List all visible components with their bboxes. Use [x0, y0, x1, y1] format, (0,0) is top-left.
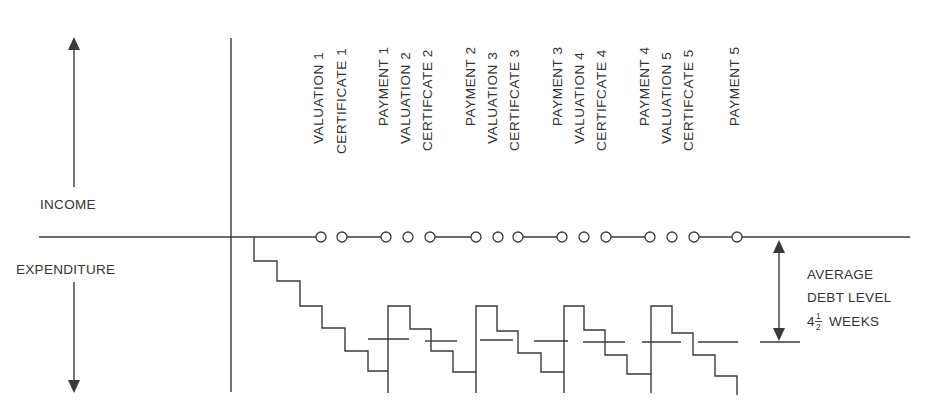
expenditure-label: EXPENDITURE [16, 262, 115, 277]
event-labels: VALUATION 1 CERTIFICATE 1 PAYMENT 1 VALU… [311, 46, 742, 154]
label-valuation-3: VALUATION 3 [485, 52, 500, 144]
annotation-line-2: DEBT LEVEL [807, 290, 892, 305]
label-payment-4: PAYMENT 4 [637, 46, 652, 126]
income-label: INCOME [40, 197, 96, 212]
svg-text:2: 2 [816, 322, 821, 332]
income-arrow-icon [68, 37, 80, 187]
label-valuation-5: VALUATION 5 [659, 52, 674, 144]
label-payment-3: PAYMENT 3 [550, 46, 565, 126]
label-certificate-4: CERTIFCATE 4 [594, 49, 609, 151]
label-valuation-2: VALUATION 2 [398, 52, 413, 144]
label-certificate-1: CERTIFICATE 1 [334, 48, 349, 154]
cash-flow-diagram: INCOME EXPENDITURE [0, 0, 926, 411]
label-certificate-5: CERTIFCATE 5 [681, 49, 696, 151]
expenditure-step-line [254, 237, 737, 395]
debt-level-double-arrow-icon [773, 240, 785, 341]
label-payment-5: PAYMENT 5 [727, 46, 742, 126]
average-debt-level-line [368, 339, 800, 342]
annotation-line-3: 4 1 2 WEEKS [807, 311, 879, 332]
label-valuation-4: VALUATION 4 [572, 52, 587, 144]
svg-text:1: 1 [816, 311, 821, 321]
svg-text:4: 4 [807, 314, 815, 329]
label-payment-1: PAYMENT 1 [376, 46, 391, 126]
annotation-line-1: AVERAGE [807, 267, 873, 282]
label-certificate-2: CERTIFCATE 2 [420, 49, 435, 151]
svg-text:WEEKS: WEEKS [829, 314, 879, 329]
label-valuation-1: VALUATION 1 [311, 52, 326, 144]
payment-drops [388, 371, 651, 393]
label-certificate-3: CERTIFCATE 3 [507, 49, 522, 151]
label-payment-2: PAYMENT 2 [463, 46, 478, 126]
expenditure-arrow-icon [68, 282, 80, 393]
